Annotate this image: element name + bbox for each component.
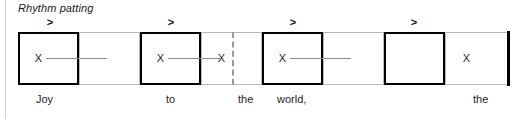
- rhythm-cell-8[interactable]: [445, 32, 508, 85]
- lyric-syllable: the: [238, 93, 253, 105]
- accent-mark-icon: >: [43, 17, 57, 28]
- figure-title: Rhythm patting: [18, 2, 93, 14]
- accent-mark-icon: >: [407, 17, 421, 28]
- page-margin-rule: [5, 0, 6, 119]
- beat-x-mark: X: [155, 53, 167, 64]
- lyric-syllable: world,: [277, 93, 306, 105]
- rhythm-cell-7[interactable]: [384, 32, 445, 85]
- beat-x-mark: X: [461, 53, 473, 64]
- end-barline: [507, 31, 510, 86]
- accent-mark-icon: >: [286, 17, 300, 28]
- lyric-syllable: the: [473, 93, 488, 105]
- accent-mark-icon: >: [164, 17, 178, 28]
- rhythm-notation-figure: Rhythm patting >>>> XXXXX Joytotheworld,…: [0, 0, 523, 119]
- rhythm-cell-2[interactable]: [79, 32, 140, 85]
- beat-x-mark: X: [216, 53, 228, 64]
- lyric-syllable: to: [166, 93, 175, 105]
- rhythm-staff: XXXXX: [18, 32, 508, 85]
- lyric-syllable: Joy: [36, 93, 53, 105]
- beat-x-mark: X: [33, 53, 45, 64]
- rhythm-cell-6[interactable]: [323, 32, 384, 85]
- beat-x-mark: X: [277, 53, 289, 64]
- dashed-barline-icon: [232, 32, 234, 85]
